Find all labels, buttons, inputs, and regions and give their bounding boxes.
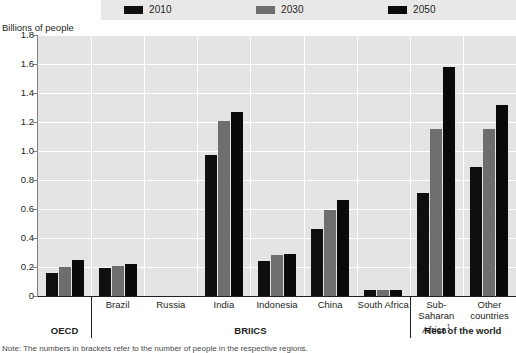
bar-oecd-2050	[72, 260, 84, 296]
legend-swatch-2050	[388, 6, 407, 14]
y-axis-label: 1.8	[0, 30, 34, 40]
y-axis-label: 1.4	[0, 88, 34, 98]
legend-item-2050: 2050	[388, 0, 436, 20]
y-axis-label: 0.6	[0, 204, 34, 214]
category-label-indonesia: Indonesia	[250, 299, 303, 310]
bar-indonesia-2050	[284, 254, 296, 296]
bar-subsaharanafrica-2010	[417, 193, 429, 296]
bar-india-2010	[205, 155, 217, 296]
group-label-oecd: OECD	[38, 325, 91, 336]
bar-india-2050	[231, 112, 243, 296]
category-label-brazil: Brazil	[91, 299, 144, 310]
y-axis-label: 0.2	[0, 262, 34, 272]
plot-area	[38, 35, 516, 296]
legend-item-2010: 2010	[124, 0, 172, 20]
gridline	[38, 35, 516, 36]
bar-india-2030	[218, 121, 230, 296]
bar-china-2030	[324, 210, 336, 296]
bar-indonesia-2030	[271, 255, 283, 296]
chart-legend: 201020302050	[101, 0, 516, 20]
y-axis-label: 1.0	[0, 146, 34, 156]
bar-indonesia-2010	[258, 261, 270, 296]
y-axis-label: 1.6	[0, 59, 34, 69]
y-axis-label: 0	[0, 291, 34, 301]
bar-othercountries-2030	[483, 129, 495, 296]
y-axis-label: 0.4	[0, 233, 34, 243]
chart-footnote: Note: The numbers in brackets refer to t…	[2, 344, 514, 353]
bar-brazil-2010	[99, 268, 111, 296]
x-axis-line	[37, 296, 516, 297]
legend-label-2010: 2010	[149, 5, 172, 15]
y-axis-label: 1.2	[0, 117, 34, 127]
legend-label-2030: 2030	[281, 5, 304, 15]
bar-china-2050	[337, 200, 349, 296]
bar-subsaharanafrica-2050	[443, 67, 455, 296]
category-separator	[144, 35, 145, 296]
legend-swatch-2030	[256, 6, 275, 14]
category-separator	[304, 35, 305, 296]
category-separator	[463, 35, 464, 296]
category-separator	[357, 35, 358, 296]
category-label-russia: Russia	[144, 299, 197, 310]
category-separator	[91, 35, 92, 296]
bar-subsaharanafrica-2030	[430, 129, 442, 296]
bar-othercountries-2050	[496, 105, 508, 296]
bar-southafrica-2050	[390, 290, 402, 296]
category-separator	[410, 35, 411, 296]
bar-brazil-2030	[112, 266, 124, 296]
bar-brazil-2050	[125, 264, 137, 296]
gridline	[38, 64, 516, 65]
category-separator	[197, 35, 198, 296]
bar-oecd-2030	[59, 267, 71, 296]
bar-china-2010	[311, 229, 323, 296]
legend-swatch-2010	[124, 6, 143, 14]
group-label-briics: BRIICS	[91, 325, 410, 336]
legend-label-2050: 2050	[413, 5, 436, 15]
category-label-india: India	[197, 299, 250, 310]
bar-oecd-2010	[46, 273, 58, 296]
bar-othercountries-2010	[470, 167, 482, 296]
group-separator	[410, 297, 411, 338]
group-label-restoftheworld: Rest of the world	[410, 325, 516, 336]
category-label-china: China	[304, 299, 357, 310]
group-separator	[91, 297, 92, 338]
y-axis-label: 0.8	[0, 175, 34, 185]
legend-item-2030: 2030	[256, 0, 304, 20]
bar-southafrica-2030	[377, 290, 389, 296]
bar-southafrica-2010	[364, 290, 376, 296]
category-label-southafrica: South Africa	[357, 299, 410, 310]
category-label-othercountries: Othercountries	[463, 299, 516, 321]
category-separator	[250, 35, 251, 296]
